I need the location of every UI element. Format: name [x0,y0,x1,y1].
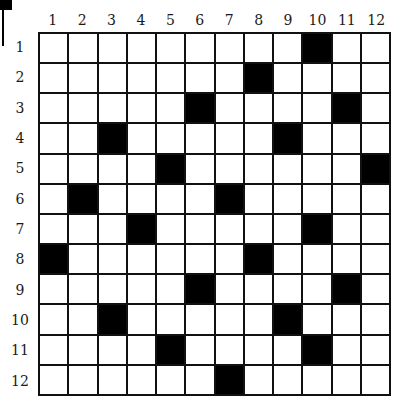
grid-cell[interactable] [274,34,301,62]
grid-cell[interactable] [157,124,184,152]
grid-cell[interactable] [362,215,389,243]
grid-cell[interactable] [245,305,272,333]
grid-cell[interactable] [157,64,184,92]
grid-cell[interactable] [303,245,330,273]
grid-cell[interactable] [128,275,155,303]
grid-cell[interactable] [128,245,155,273]
grid-cell[interactable] [362,124,389,152]
grid-cell[interactable] [303,275,330,303]
grid-cell[interactable] [303,94,330,122]
grid-cell[interactable] [157,34,184,62]
grid-cell[interactable] [69,245,96,273]
grid-cell[interactable] [128,64,155,92]
grid-cell[interactable] [69,94,96,122]
grid-cell[interactable] [333,245,360,273]
grid-cell[interactable] [274,215,301,243]
grid-cell[interactable] [186,215,213,243]
grid-cell[interactable] [69,366,96,394]
grid-cell[interactable] [40,215,67,243]
grid-cell[interactable] [40,275,67,303]
grid-cell[interactable] [362,245,389,273]
grid-cell[interactable] [128,305,155,333]
grid-cell[interactable] [333,185,360,213]
grid-cell[interactable] [99,275,126,303]
grid-cell[interactable] [362,366,389,394]
grid-cell[interactable] [40,305,67,333]
grid-cell[interactable] [186,155,213,183]
grid-cell[interactable] [333,155,360,183]
grid-cell[interactable] [274,64,301,92]
grid-cell[interactable] [245,185,272,213]
grid-cell[interactable] [99,336,126,364]
grid-cell[interactable] [157,185,184,213]
grid-cell[interactable] [216,336,243,364]
grid-cell[interactable] [69,215,96,243]
grid-cell[interactable] [99,366,126,394]
grid-cell[interactable] [303,124,330,152]
grid-cell[interactable] [362,305,389,333]
grid-cell[interactable] [186,305,213,333]
grid-cell[interactable] [274,275,301,303]
grid-cell[interactable] [333,124,360,152]
grid-cell[interactable] [245,275,272,303]
grid-cell[interactable] [128,124,155,152]
grid-cell[interactable] [216,305,243,333]
grid-cell[interactable] [303,64,330,92]
grid-cell[interactable] [216,275,243,303]
grid-cell[interactable] [157,215,184,243]
grid-cell[interactable] [157,275,184,303]
grid-cell[interactable] [216,94,243,122]
grid-cell[interactable] [186,64,213,92]
grid-cell[interactable] [362,185,389,213]
grid-cell[interactable] [333,336,360,364]
grid-cell[interactable] [245,155,272,183]
grid-cell[interactable] [333,305,360,333]
grid-cell[interactable] [40,34,67,62]
grid-cell[interactable] [99,64,126,92]
grid-cell[interactable] [99,94,126,122]
grid-cell[interactable] [128,34,155,62]
grid-cell[interactable] [186,366,213,394]
grid-cell[interactable] [274,245,301,273]
grid-cell[interactable] [128,185,155,213]
grid-cell[interactable] [303,155,330,183]
grid-cell[interactable] [274,155,301,183]
grid-cell[interactable] [303,366,330,394]
grid-cell[interactable] [274,94,301,122]
grid-cell[interactable] [40,94,67,122]
grid-cell[interactable] [69,34,96,62]
grid-cell[interactable] [216,124,243,152]
grid-cell[interactable] [362,94,389,122]
grid-cell[interactable] [69,155,96,183]
grid-cell[interactable] [274,366,301,394]
grid-cell[interactable] [333,64,360,92]
grid-cell[interactable] [157,366,184,394]
grid-cell[interactable] [362,275,389,303]
grid-cell[interactable] [99,245,126,273]
grid-cell[interactable] [128,94,155,122]
grid-cell[interactable] [274,336,301,364]
grid-cell[interactable] [333,215,360,243]
grid-cell[interactable] [99,215,126,243]
grid-cell[interactable] [69,275,96,303]
grid-cell[interactable] [69,336,96,364]
grid-cell[interactable] [128,155,155,183]
grid-cell[interactable] [333,34,360,62]
grid-cell[interactable] [128,336,155,364]
grid-cell[interactable] [69,64,96,92]
grid-cell[interactable] [69,305,96,333]
grid-cell[interactable] [157,94,184,122]
grid-cell[interactable] [99,34,126,62]
grid-cell[interactable] [40,124,67,152]
grid-cell[interactable] [186,124,213,152]
grid-cell[interactable] [128,366,155,394]
grid-cell[interactable] [245,215,272,243]
grid-cell[interactable] [362,336,389,364]
grid-cell[interactable] [333,366,360,394]
grid-cell[interactable] [216,245,243,273]
grid-cell[interactable] [40,155,67,183]
grid-cell[interactable] [40,64,67,92]
grid-cell[interactable] [40,185,67,213]
grid-cell[interactable] [186,34,213,62]
grid-cell[interactable] [216,64,243,92]
